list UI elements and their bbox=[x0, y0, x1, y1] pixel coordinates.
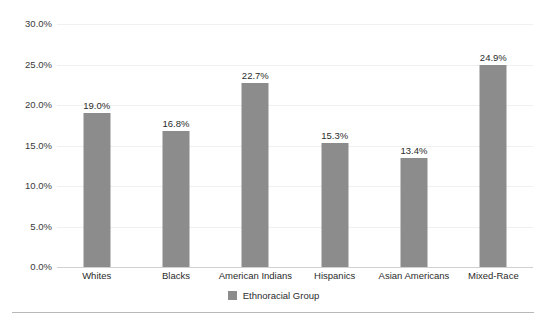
bar[interactable] bbox=[83, 113, 110, 267]
y-tick-label: 25.0% bbox=[4, 60, 52, 70]
bar-slot: 16.8% bbox=[136, 24, 215, 267]
y-tick-label: 0.0% bbox=[4, 262, 52, 272]
legend-swatch bbox=[228, 291, 237, 300]
chart-legend: Ethnoracial Group bbox=[0, 290, 547, 301]
y-tick-label: 20.0% bbox=[4, 100, 52, 110]
bar[interactable] bbox=[400, 158, 427, 267]
bar-slot: 24.9% bbox=[454, 24, 533, 267]
bottom-divider bbox=[12, 312, 534, 313]
bar-slot: 22.7% bbox=[216, 24, 295, 267]
y-tick-label: 5.0% bbox=[4, 222, 52, 232]
y-tick-label: 10.0% bbox=[4, 181, 52, 191]
bar-value-label: 19.0% bbox=[83, 100, 110, 111]
plot-area: 19.0%16.8%22.7%15.3%13.4%24.9% bbox=[57, 24, 533, 267]
bar-slot: 15.3% bbox=[295, 24, 374, 267]
bar[interactable] bbox=[162, 131, 189, 267]
y-tick-label: 15.0% bbox=[4, 141, 52, 151]
bar[interactable] bbox=[321, 143, 348, 267]
y-tick-label: 30.0% bbox=[4, 19, 52, 29]
legend-label: Ethnoracial Group bbox=[243, 290, 320, 301]
bar-slot: 13.4% bbox=[374, 24, 453, 267]
bar-slot: 19.0% bbox=[57, 24, 136, 267]
bar-value-label: 13.4% bbox=[401, 145, 428, 156]
bar-value-label: 22.7% bbox=[242, 70, 269, 81]
x-tick-label: Mixed-Race bbox=[443, 270, 543, 282]
bar-chart: 0.0%5.0%10.0%15.0%20.0%25.0%30.0% 19.0%1… bbox=[0, 0, 547, 327]
x-axis-labels: WhitesBlacksAmerican IndiansHispanicsAsi… bbox=[57, 270, 533, 286]
bar-value-label: 15.3% bbox=[321, 130, 348, 141]
bar[interactable] bbox=[480, 65, 507, 267]
bar-value-label: 24.9% bbox=[480, 52, 507, 63]
y-axis: 0.0%5.0%10.0%15.0%20.0%25.0%30.0% bbox=[0, 0, 52, 327]
bar-value-label: 16.8% bbox=[163, 118, 190, 129]
axis-baseline bbox=[57, 267, 533, 268]
bar[interactable] bbox=[242, 83, 269, 267]
